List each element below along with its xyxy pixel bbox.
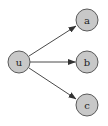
node-u-label: u [16, 57, 23, 68]
node-b-label: b [84, 57, 90, 68]
edge-u-c [29, 68, 76, 99]
edge-u-a [29, 26, 76, 56]
node-c[interactable]: c [76, 94, 98, 116]
edges [29, 26, 76, 99]
node-a[interactable]: a [76, 9, 98, 31]
node-a-label: a [84, 15, 90, 26]
node-u[interactable]: u [8, 51, 30, 73]
node-b[interactable]: b [76, 51, 98, 73]
graph-canvas: u a b c [0, 0, 108, 126]
graph-svg: u a b c [0, 0, 108, 126]
node-c-label: c [84, 100, 90, 111]
